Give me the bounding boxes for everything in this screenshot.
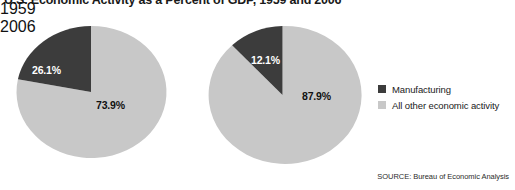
legend-item-other: All other economic activity (378, 99, 513, 111)
pie-value-manufacturing-2006: 12.1% (251, 55, 280, 66)
legend-swatch-manufacturing (378, 85, 386, 93)
pie-chart-2006 (206, 26, 359, 164)
chart-figure: U.S. Economic Activity as a Percent of G… (0, 0, 515, 190)
page-title: U.S. Economic Activity as a Percent of G… (4, 0, 509, 7)
pie-value-other-2006: 87.9% (302, 91, 331, 102)
pie-value-other-1959: 73.9% (96, 100, 125, 111)
legend-item-manufacturing: Manufacturing (378, 83, 513, 95)
legend-swatch-other (378, 101, 386, 109)
source-note: SOURCE: Bureau of Economic Analysis (377, 172, 509, 181)
legend-label-other: All other economic activity (392, 100, 499, 111)
legend-label-manufacturing: Manufacturing (392, 84, 451, 95)
pie-chart-1959 (16, 26, 166, 158)
pie-value-manufacturing-1959: 26.1% (32, 65, 61, 76)
legend: Manufacturing All other economic activit… (378, 83, 513, 115)
pie-slice-other-2006 (209, 26, 362, 164)
